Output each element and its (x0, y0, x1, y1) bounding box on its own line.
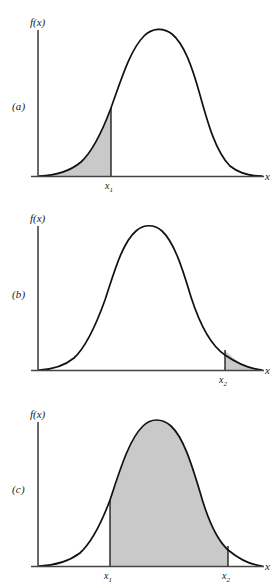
panel-a-plot: f(x) x x1 (0, 0, 274, 195)
panel-b-plot: f(x) x x2 (0, 195, 274, 391)
panel-c: (c) f(x) x x1 x2 (0, 391, 274, 588)
panel-b: (b) f(x) x x2 (0, 195, 274, 391)
panel-c-tick-x1-sub: 1 (108, 576, 112, 584)
panel-b-shaded-area (225, 350, 262, 370)
panel-c-shaded-area (110, 420, 228, 566)
panel-c-tick-x2: x2 (221, 570, 230, 584)
panel-a: (a) f(x) x x1 (0, 0, 274, 195)
panel-a-y-axis-label: f(x) (30, 16, 46, 29)
panel-c-x-axis-label: x (264, 560, 270, 572)
panel-a-tick-x1-sub: 1 (109, 186, 113, 194)
panel-b-tick-x2: x2 (218, 374, 227, 388)
panel-c-plot: f(x) x x1 x2 (0, 391, 274, 588)
panel-c-tick-x1: x1 (103, 570, 112, 584)
panel-c-tick-x2-sub: 2 (226, 576, 230, 584)
panel-a-curve (39, 29, 262, 176)
panel-a-tag: (a) (12, 100, 25, 112)
panel-c-tag: (c) (12, 483, 25, 495)
panel-c-y-axis-label: f(x) (30, 408, 46, 421)
panel-a-tick-x1: x1 (104, 180, 113, 194)
panel-b-tag: (b) (12, 288, 25, 300)
panel-b-curve (39, 226, 262, 370)
panel-b-y-axis-label: f(x) (30, 212, 46, 225)
panel-a-x-axis-label: x (264, 170, 270, 182)
panel-b-x-axis-label: x (264, 364, 270, 376)
panel-b-tick-x2-sub: 2 (223, 380, 227, 388)
probability-density-figure: (a) f(x) x x1 (b) (0, 0, 274, 588)
